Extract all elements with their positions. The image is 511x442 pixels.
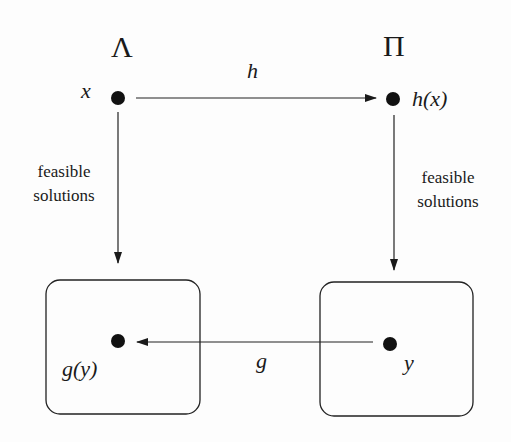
y-label: y [404, 352, 414, 374]
right-feasible-label: feasible solutions [406, 166, 490, 214]
hx-label: h(x) [412, 88, 447, 110]
y-node [383, 337, 397, 351]
g-label: g [256, 350, 267, 372]
gy-node [111, 334, 125, 348]
x-node [111, 91, 125, 105]
x-label: x [81, 80, 91, 102]
right-solution-set-box [320, 282, 473, 416]
h-label: h [247, 60, 258, 82]
reduction-diagram: Λ Π x h h(x) feasible solutions feasible… [0, 0, 511, 442]
right-feasible-line1: feasible [406, 166, 490, 190]
left-solution-set-box [46, 280, 200, 414]
pi-problem-label: Π [383, 31, 405, 61]
left-feasible-line2: solutions [26, 184, 102, 208]
right-feasible-line2: solutions [406, 190, 490, 214]
left-feasible-line1: feasible [26, 160, 102, 184]
left-feasible-label: feasible solutions [26, 160, 102, 208]
gy-label: g(y) [62, 358, 97, 380]
lambda-problem-label: Λ [111, 32, 133, 62]
hx-node [386, 92, 400, 106]
